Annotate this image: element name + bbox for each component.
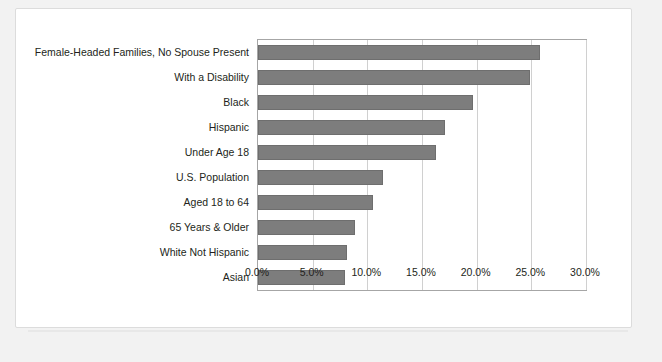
gridline [586,40,587,290]
bar-row: U.S. Population [258,165,586,190]
bar-row: Black [258,90,586,115]
bar[interactable] [258,120,445,135]
bar[interactable] [258,195,373,210]
category-label: Aged 18 to 64 [184,193,249,212]
bar-row: With a Disability [258,65,586,90]
x-tick-label: 15.0% [391,266,451,278]
bar-row: Under Age 18 [258,140,586,165]
category-label: White Not Hispanic [160,243,249,262]
category-label: Hispanic [209,118,249,137]
x-tick-label: 5.0% [282,266,342,278]
bar-row: Female-Headed Families, No Spouse Presen… [258,40,586,65]
category-label: Female-Headed Families, No Spouse Presen… [35,43,249,62]
bar-chart: Female-Headed Families, No Spouse Presen… [16,9,633,329]
bar[interactable] [258,170,383,185]
footer-divider [28,330,628,332]
x-tick-label: 10.0% [336,266,396,278]
x-tick-label: 30.0% [555,266,615,278]
bar[interactable] [258,95,473,110]
bar[interactable] [258,220,355,235]
category-label: Under Age 18 [185,143,249,162]
bar-row: White Not Hispanic [258,240,586,265]
category-label: With a Disability [174,68,249,87]
figure-root: Female-Headed Families, No Spouse Presen… [0,0,662,362]
bar[interactable] [258,45,540,60]
bar[interactable] [258,145,436,160]
bar-row: 65 Years & Older [258,215,586,240]
x-tick-label: 20.0% [446,266,506,278]
x-tick-label: 25.0% [500,266,560,278]
chart-card: Female-Headed Families, No Spouse Presen… [15,8,632,328]
plot-area: Female-Headed Families, No Spouse Presen… [257,39,587,291]
bar-row: Hispanic [258,115,586,140]
bar[interactable] [258,70,530,85]
bar[interactable] [258,245,347,260]
bar-row: Aged 18 to 64 [258,190,586,215]
category-label: U.S. Population [176,168,249,187]
category-label: 65 Years & Older [170,218,249,237]
category-label: Black [223,93,249,112]
x-tick-label: 0.0% [227,266,287,278]
